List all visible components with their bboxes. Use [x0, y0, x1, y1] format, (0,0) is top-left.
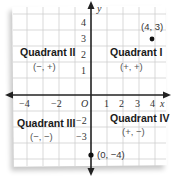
y-axis-down-arrow-icon	[88, 168, 95, 176]
quadrant-2-signs: (−, +)	[33, 61, 56, 72]
x-tick-label: −2	[51, 98, 62, 109]
point-0-neg4-label: (0, −4)	[97, 149, 125, 160]
x-tick-label: 2	[119, 98, 124, 109]
x-tick-label: −4	[19, 98, 30, 109]
x-tick-label: 3	[135, 98, 140, 109]
origin-label: O	[81, 98, 88, 109]
point-0-neg4-marker	[88, 152, 93, 157]
quadrant-2-label: Quadrant II	[20, 46, 76, 58]
y-axis	[88, 1, 95, 176]
y-tick-label: −2	[76, 115, 87, 126]
y-tick-label: 1	[81, 65, 86, 76]
quadrant-4-label: Quadrant IV	[110, 112, 170, 124]
x-tick-label: 4	[150, 98, 155, 109]
quadrant-1-label: Quadrant I	[110, 46, 163, 58]
quadrant-3-signs: (−, −)	[30, 131, 53, 142]
point-4-3-marker	[150, 37, 155, 42]
y-axis-up-arrow-icon	[88, 1, 95, 9]
y-tick-label: 3	[81, 33, 86, 44]
y-tick-label: −3	[76, 131, 87, 142]
quadrant-4-signs: (+, −)	[122, 126, 145, 137]
y-tick-label: 2	[81, 49, 86, 60]
quadrant-1-signs: (+, +)	[120, 61, 143, 72]
point-4-3-label: (4, 3)	[141, 21, 163, 32]
x-tick-label: 1	[104, 98, 109, 109]
x-axis-label: x	[159, 98, 165, 109]
y-axis-label: y	[96, 3, 102, 14]
quadrant-3-label: Quadrant III	[17, 117, 75, 129]
coordinate-plane: y x O −4 −2 1 2 3 4 4 3 2 1 −2 −3 Quadra…	[0, 0, 176, 179]
x-axis-left-arrow-icon	[5, 92, 13, 99]
y-tick-label: 4	[81, 17, 86, 28]
